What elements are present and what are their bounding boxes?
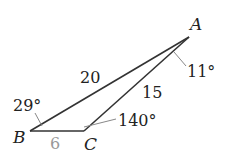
side-label-bc: 6 (50, 134, 60, 153)
angle-label-b: 29° (13, 96, 41, 115)
vertex-label-c: C (84, 134, 97, 154)
angle-label-a: 11° (187, 62, 215, 81)
angle-a-leader (174, 52, 186, 66)
triangle-diagram: A B C 20 15 6 11° 29° 140° (0, 0, 230, 159)
angle-label-c: 140° (118, 111, 157, 130)
side-label-ac: 15 (142, 83, 162, 102)
vertex-label-b: B (12, 127, 26, 147)
angle-c-leader (84, 119, 116, 127)
side-ab (30, 37, 189, 131)
side-label-ab: 20 (80, 68, 100, 87)
vertex-label-a: A (188, 14, 202, 34)
